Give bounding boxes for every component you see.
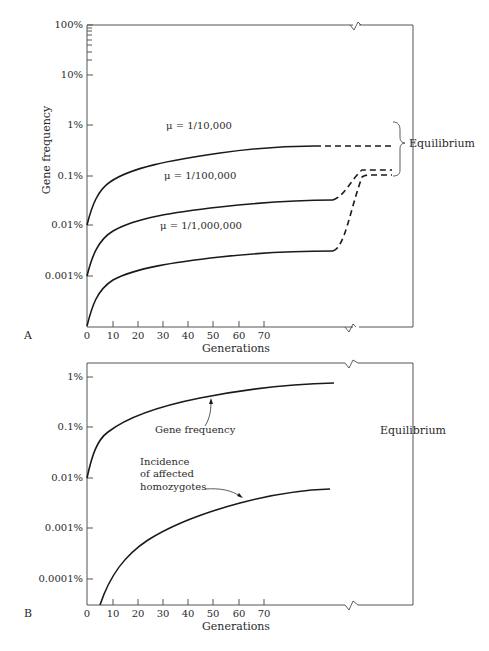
- curve-mu-1-10000: [87, 146, 315, 225]
- equilibrium-label-a: Equilibrium: [409, 137, 476, 150]
- panel-a-y-ticks: [87, 25, 93, 276]
- gene-frequency-arrowhead-icon: [209, 398, 213, 404]
- panel-b: 1% 0.1% 0.01% 0.001% 0.0001% 0 10 20 30 …: [24, 360, 447, 633]
- axis-break-bottom-icon: [345, 324, 356, 332]
- label-mu-1-1000000: μ = 1/1,000,000: [160, 220, 242, 231]
- y-tick-label: 1%: [67, 119, 83, 130]
- y-tick-label: 0.001%: [45, 270, 83, 281]
- x-tick-label: 70: [258, 330, 271, 341]
- y-tick-label: 100%: [54, 19, 83, 30]
- x-tick-label: 60: [233, 608, 246, 619]
- y-tick-label: 0.001%: [45, 522, 83, 533]
- incidence-pointer: [205, 489, 241, 497]
- x-tick-label: 50: [207, 608, 220, 619]
- curve-mu-1-1000000: [87, 251, 333, 326]
- incidence-label-line3: homozygotes: [140, 481, 206, 492]
- panel-a-x-axis-label: Generations: [202, 342, 270, 355]
- x-tick-label: 10: [107, 608, 120, 619]
- panel-b-frame: [87, 363, 413, 605]
- x-tick-label: 0: [84, 330, 90, 341]
- axis-break-top-icon: [350, 22, 361, 30]
- axis-break-bottom-icon: [345, 601, 358, 610]
- equilibrium-dash-mu-1-1000000: [333, 175, 392, 251]
- x-tick-label: 0: [84, 608, 90, 619]
- x-tick-label: 30: [157, 608, 170, 619]
- x-tick-label: 70: [258, 608, 271, 619]
- incidence-label-line1: Incidence: [140, 456, 190, 467]
- equilibrium-brace-icon: [393, 122, 405, 176]
- y-tick-label: 0.1%: [58, 421, 83, 432]
- y-tick-label: 0.1%: [58, 170, 83, 181]
- panel-a-letter: A: [23, 329, 33, 342]
- y-tick-label: 0.0001%: [39, 573, 84, 584]
- x-tick-label: 40: [182, 608, 195, 619]
- curve-mu-1-100000: [87, 200, 333, 276]
- gene-frequency-pointer: [205, 402, 211, 426]
- figure: 100% 10% 1% 0.1% 0.01% 0.001% Gene frequ…: [0, 0, 489, 651]
- x-tick-label: 20: [132, 330, 145, 341]
- y-tick-label: 10%: [61, 69, 83, 80]
- gene-frequency-label: Gene frequency: [155, 424, 236, 435]
- incidence-arrowhead-icon: [237, 493, 243, 498]
- label-mu-1-10000: μ = 1/10,000: [166, 120, 232, 131]
- incidence-label-line2: of affected: [140, 468, 194, 479]
- panel-b-x-axis-label: Generations: [202, 620, 270, 633]
- equilibrium-label-b: Equilibrium: [380, 424, 447, 437]
- panel-b-y-ticks: [87, 377, 93, 579]
- panel-b-y-tick-labels: 1% 0.1% 0.01% 0.001% 0.0001%: [39, 371, 84, 584]
- x-tick-label: 10: [107, 330, 120, 341]
- x-tick-label: 40: [182, 330, 195, 341]
- panel-a-y-axis-label: Gene frequency: [40, 105, 53, 194]
- y-tick-label: 1%: [67, 371, 83, 382]
- y-tick-label: 0.01%: [51, 219, 83, 230]
- panel-a-x-tick-labels: 0 10 20 30 40 50 60 70: [84, 330, 271, 341]
- y-tick-label: 0.01%: [51, 472, 83, 483]
- axis-break-top-icon: [345, 360, 358, 368]
- curve-incidence-homozygotes: [100, 489, 330, 605]
- x-tick-label: 60: [233, 330, 246, 341]
- panel-a-x-ticks: [113, 321, 264, 327]
- x-tick-label: 30: [157, 330, 170, 341]
- label-mu-1-100000: μ = 1/100,000: [164, 170, 236, 181]
- panel-b-letter: B: [24, 607, 32, 620]
- panel-b-x-tick-labels: 0 10 20 30 40 50 60 70: [84, 608, 271, 619]
- panel-a: 100% 10% 1% 0.1% 0.01% 0.001% Gene frequ…: [23, 19, 476, 355]
- x-tick-label: 20: [132, 608, 145, 619]
- x-tick-label: 50: [207, 330, 220, 341]
- panel-b-x-ticks: [113, 599, 264, 605]
